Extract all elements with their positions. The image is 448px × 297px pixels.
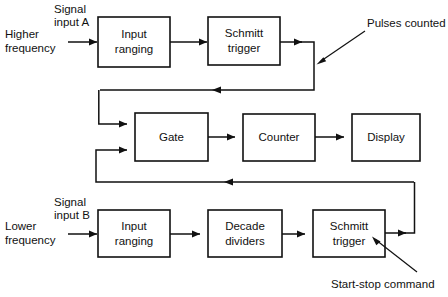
block-input-ranging-a	[98, 17, 170, 67]
block-input-ranging-b	[98, 210, 170, 257]
label-pulses-counted: Pulses counted	[367, 17, 446, 29]
arrowhead-pulses-return	[212, 86, 221, 93]
block-counter-label: Counter	[259, 131, 300, 143]
arrowhead-start-stop-return	[224, 178, 233, 185]
block-diagram-canvas: Input ranging Schmitt trigger Gate Count…	[0, 0, 448, 297]
block-schmitt-trigger-a-label-line1: Schmitt	[225, 27, 264, 39]
block-input-ranging-a-label-line2: ranging	[115, 43, 153, 55]
block-gate-label: Gate	[159, 131, 184, 143]
label-start-stop-command: Start-stop command	[331, 278, 435, 290]
leader-line-pulses-counted	[321, 31, 365, 61]
label-lower-frequency-line1: Lower	[5, 220, 36, 232]
label-higher-frequency-line1: Higher	[5, 28, 39, 40]
label-higher-frequency-line2: frequency	[5, 42, 56, 54]
block-input-ranging-a-label-line1: Input	[121, 28, 147, 40]
wire-schmitt-b-riser	[404, 182, 415, 233]
block-decade-dividers-label-line2: dividers	[225, 235, 265, 247]
frequency-counter-block-diagram: Input ranging Schmitt trigger Gate Count…	[0, 0, 448, 297]
block-decade-dividers-label-line1: Decade	[225, 220, 265, 232]
label-signal-input-b-line1: Signal	[54, 196, 86, 208]
label-lower-frequency-line2: frequency	[5, 234, 56, 246]
block-schmitt-trigger-b-label-line1: Schmitt	[330, 220, 369, 232]
block-decade-dividers	[208, 210, 282, 257]
block-schmitt-trigger-a	[208, 17, 280, 65]
block-input-ranging-b-label-line2: ranging	[115, 235, 153, 247]
block-input-ranging-b-label-line1: Input	[121, 220, 147, 232]
block-schmitt-trigger-b-label-line2: trigger	[333, 235, 366, 247]
block-schmitt-trigger-b	[313, 210, 385, 257]
label-signal-input-a-line1: Signal	[54, 3, 86, 15]
label-signal-input-a-line2: input A	[54, 16, 89, 28]
block-schmitt-trigger-a-label-line2: trigger	[228, 42, 261, 54]
label-signal-input-b-line2: input B	[54, 209, 90, 221]
wire-bus-to-gate-upper-input	[99, 90, 127, 124]
block-display-label: Display	[367, 131, 405, 143]
